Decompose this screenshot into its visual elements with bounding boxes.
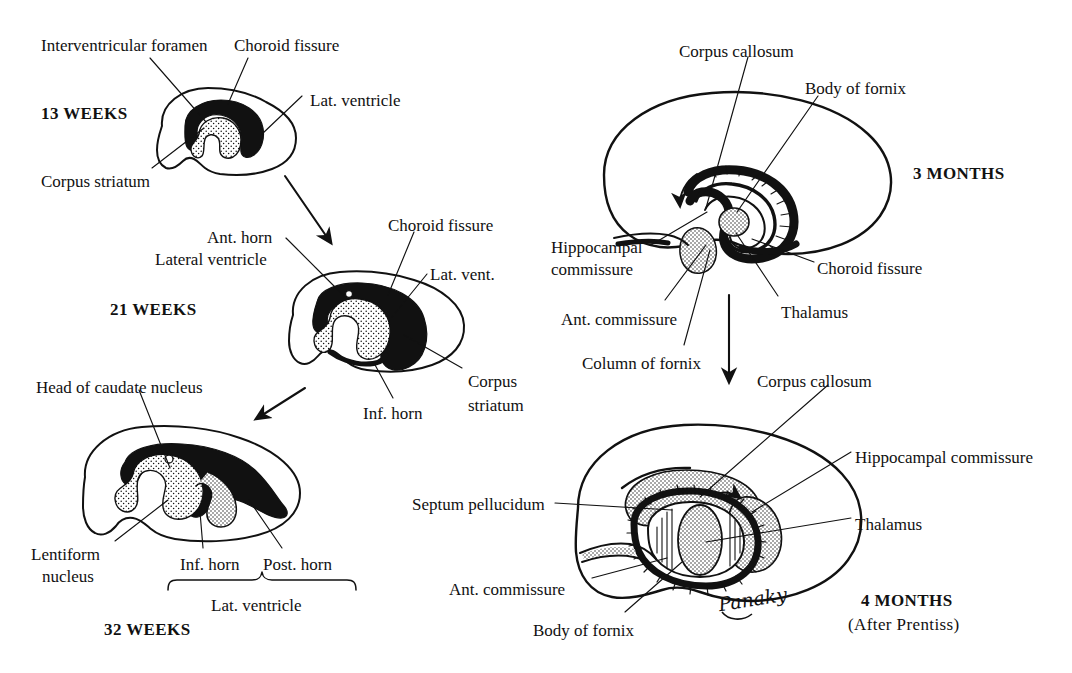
label-hippocampal-3m: Hippocampal — [551, 238, 643, 257]
label-corpus-striatum-13w: Corpus striatum — [41, 172, 150, 191]
brain-4-months — [576, 425, 862, 601]
label-striatum-21w: striatum — [468, 396, 524, 415]
label-body-of-fornix-4m: Body of fornix — [533, 621, 634, 640]
label-ant-commissure-4m: Ant. commissure — [449, 580, 565, 599]
label-lentiform: Lentiform — [31, 545, 100, 564]
label-commissure-3m: commissure — [551, 260, 633, 279]
label-corpus-21w: Corpus — [468, 372, 517, 391]
arrow-21-to-32 — [256, 388, 305, 419]
stage-4-months: 4 MONTHS — [861, 591, 953, 611]
artist-signature: Panaky — [717, 583, 789, 616]
label-corpus-callosum-4m: Corpus callosum — [757, 372, 872, 391]
label-interventricular-foramen: Interventricular foramen — [41, 36, 208, 55]
label-thalamus-3m: Thalamus — [781, 303, 848, 322]
label-lat-ventricle-32w: Lat. ventricle — [211, 596, 302, 615]
label-lat-ventricle-13w: Lat. ventricle — [310, 91, 401, 110]
label-choroid-fissure-13w: Choroid fissure — [234, 36, 339, 55]
label-head-of-caudate-nucleus: Head of caudate nucleus — [36, 378, 203, 397]
label-corpus-callosum-3m: Corpus callosum — [679, 42, 794, 61]
label-choroid-fissure-21w: Choroid fissure — [388, 216, 493, 235]
label-hippocampal-commissure-4m: Hippocampal commissure — [855, 448, 1033, 467]
stage-3-months: 3 MONTHS — [913, 164, 1005, 184]
figure-canvas: Interventricular foramen Choroid fissure… — [0, 0, 1072, 673]
brain-32-weeks — [83, 426, 300, 541]
stage-21-weeks: 21 WEEKS — [110, 300, 197, 320]
label-lat-vent-21w: Lat. vent. — [430, 265, 495, 284]
label-choroid-fissure-3m: Choroid fissure — [817, 259, 922, 278]
label-nucleus: nucleus — [42, 567, 94, 586]
label-column-of-fornix-3m: Column of fornix — [582, 354, 701, 373]
label-lateral-ventricle-21w: Lateral ventricle — [155, 250, 267, 269]
label-ant-commissure-3m: Ant. commissure — [561, 310, 677, 329]
label-inf-horn-32w: Inf. horn — [180, 555, 239, 574]
label-body-of-fornix-3m: Body of fornix — [805, 79, 906, 98]
stage-13-weeks: 13 WEEKS — [41, 104, 128, 124]
arrow-13-to-21 — [285, 176, 331, 243]
brain-13-weeks — [157, 88, 296, 175]
label-inf-horn-21w: Inf. horn — [363, 404, 422, 423]
brain-3-months — [604, 92, 891, 273]
label-septum-pellucidum-4m: Septum pellucidum — [412, 495, 545, 514]
lat-ventricle-brace — [168, 572, 356, 590]
diagram-artwork — [0, 0, 1072, 673]
brain-21-weeks — [289, 271, 464, 371]
stage-32-weeks: 32 WEEKS — [104, 620, 191, 640]
label-thalamus-4m: Thalamus — [855, 515, 922, 534]
label-ant-horn-21w: Ant. horn — [207, 228, 272, 247]
stage-4-months-attribution: (After Prentiss) — [848, 615, 960, 635]
label-post-horn-32w: Post. horn — [263, 555, 332, 574]
